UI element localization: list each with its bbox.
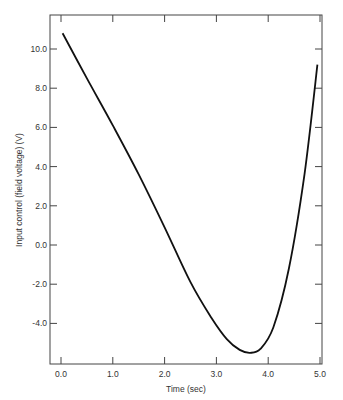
x-axis-title: Time (sec): [166, 384, 206, 394]
y-tick-label: -4.0: [32, 318, 47, 328]
series-line-input-control: [63, 33, 318, 353]
x-tick-label: 2.0: [159, 369, 171, 379]
plot-frame: [50, 15, 322, 364]
x-tick-label: 3.0: [210, 369, 222, 379]
x-tick-label: 5.0: [314, 369, 326, 379]
y-axis-title: Input control (field voltage) (V): [14, 133, 24, 247]
y-axis-ticks: 10.08.06.04.02.00.0-2.0-4.0: [30, 44, 322, 328]
x-tick-label: 4.0: [262, 369, 274, 379]
y-tick-label: -2.0: [32, 279, 47, 289]
y-tick-label: 4.0: [35, 162, 47, 172]
x-axis-ticks: 0.01.02.03.04.05.0: [55, 15, 326, 379]
y-tick-label: 6.0: [35, 122, 47, 132]
line-chart: 0.01.02.03.04.05.0 10.08.06.04.02.00.0-2…: [0, 0, 343, 400]
y-tick-label: 8.0: [35, 83, 47, 93]
x-tick-label: 0.0: [55, 369, 67, 379]
x-tick-label: 1.0: [107, 369, 119, 379]
y-tick-label: 2.0: [35, 201, 47, 211]
y-tick-label: 10.0: [30, 44, 47, 54]
y-tick-label: 0.0: [35, 240, 47, 250]
